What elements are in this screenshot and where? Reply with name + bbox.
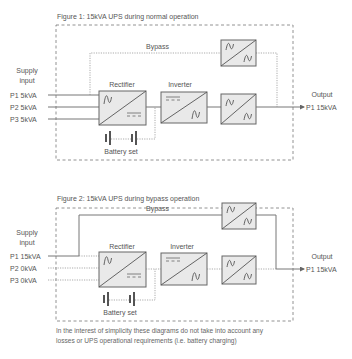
figure-1: Figure 1: 15kVA UPS during normal operat… [10, 13, 337, 160]
input-p3: P3 5kVA [10, 116, 37, 123]
rectifier-label: Rectifier [109, 81, 135, 88]
bypass-path-out [256, 215, 276, 269]
footnote-line-1: In the interest of simplicity these diag… [56, 327, 264, 335]
output-label: Output [311, 91, 332, 99]
figure-2-caption: Figure 2: 15kVA UPS during bypass operat… [57, 195, 199, 203]
bypass-label: Bypass [146, 205, 169, 213]
input-p1: P1 15kVA [10, 253, 41, 260]
supply-label-2: input [19, 77, 34, 85]
battery-icon [105, 134, 107, 142]
supply-label: Supply [16, 229, 38, 237]
battery-icon [129, 295, 131, 303]
output-converter [221, 94, 256, 124]
inverter-label: Inverter [168, 81, 192, 88]
bypass-path [79, 215, 222, 256]
supply-label: Supply [16, 67, 38, 75]
bypass-label: Bypass [146, 43, 169, 51]
battery-icon [131, 134, 133, 142]
ups-diagrams: Figure 1: 15kVA UPS during normal operat… [0, 0, 352, 359]
inverter-label: Inverter [170, 243, 194, 250]
battery-icon [103, 295, 105, 303]
input-p2: P2 0kVA [10, 265, 37, 272]
figure-1-caption: Figure 1: 15kVA UPS during normal operat… [57, 13, 199, 21]
bypass-converter [221, 40, 256, 66]
bypass-converter [222, 203, 256, 229]
figure-2: Figure 2: 15kVA UPS during bypass operat… [10, 195, 337, 321]
output-value: P1 15kVA [306, 266, 337, 273]
bypass-path [90, 53, 221, 95]
inverter [161, 92, 207, 123]
supply-label-2: input [19, 239, 34, 247]
footnote-line-2: losses or UPS operational requirements (… [56, 337, 237, 345]
rectifier [99, 91, 146, 125]
input-p3: P3 0kVA [10, 277, 37, 284]
rectifier [99, 252, 146, 287]
bypass-path-out [256, 53, 277, 107]
output-label: Output [311, 253, 332, 261]
input-p1: P1 5kVA [10, 92, 37, 99]
rectifier-label: Rectifier [109, 243, 135, 250]
output-value: P1 15kVA [306, 104, 337, 111]
input-p2: P2 5kVA [10, 104, 37, 111]
output-converter [222, 256, 256, 284]
battery-label: Battery set [103, 309, 137, 317]
battery-label: Battery set [104, 148, 138, 156]
inverter [161, 253, 207, 285]
